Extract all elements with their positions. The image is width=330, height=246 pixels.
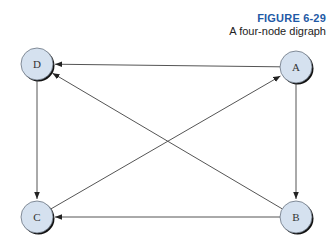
node-label: D [33,58,41,70]
edges [37,64,296,217]
edge-a-to-d [55,64,280,67]
node-label: C [33,211,40,223]
node-b: B [280,201,314,235]
node-d: D [21,48,55,82]
node-a: A [280,51,314,85]
digraph: DACB [0,0,330,246]
node-label: A [292,61,300,73]
node-c: C [21,201,55,235]
node-label: B [292,211,299,223]
edge-c-to-a [51,76,281,209]
